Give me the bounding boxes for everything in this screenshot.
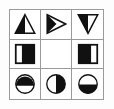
matrix-cell-r3c3[interactable] (72, 69, 103, 99)
circle-top-filled-icon (14, 73, 36, 95)
triangle-right-left-half-icon (45, 13, 67, 35)
matrix-cell-r2c2-empty[interactable] (41, 40, 72, 70)
matrix-cell-r1c2[interactable] (41, 10, 72, 40)
matrix-grid (9, 9, 104, 100)
matrix-cell-r3c1[interactable] (10, 69, 41, 99)
matrix-cell-r2c1[interactable] (10, 40, 41, 70)
triangle-down-left-half-icon (77, 13, 99, 35)
circle-right-half-filled-icon (45, 73, 67, 95)
matrix-cell-r3c2[interactable] (41, 69, 72, 99)
matrix-cell-r2c3[interactable] (72, 40, 103, 70)
square-left-filled-icon (77, 43, 99, 65)
triangle-up-left-half-icon (14, 13, 36, 35)
circle-bottom-filled-icon (77, 73, 99, 95)
square-right-filled-icon (14, 43, 36, 65)
matrix-cell-r1c1[interactable] (10, 10, 41, 40)
matrix-cell-r1c3[interactable] (72, 10, 103, 40)
matrix-puzzle-image (0, 0, 114, 109)
